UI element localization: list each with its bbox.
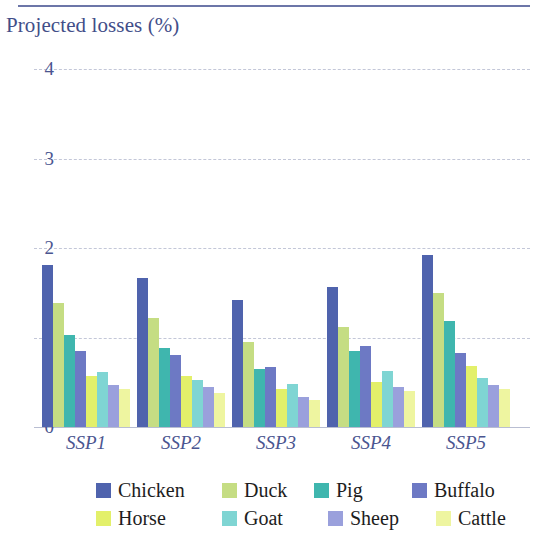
bar-horse-ssp1: [86, 376, 97, 427]
legend-label-horse: Horse: [118, 508, 166, 528]
bar-sheep-ssp2: [203, 387, 214, 427]
legend-label-goat: Goat: [244, 508, 283, 528]
header-rule: [18, 5, 530, 7]
bar-cattle-ssp3: [309, 400, 320, 427]
gridline-0: [34, 427, 530, 428]
legend-item-goat[interactable]: Goat: [222, 508, 283, 528]
legend-swatch-duck-icon: [222, 483, 237, 498]
legend-item-cattle[interactable]: Cattle: [436, 508, 506, 528]
legend-swatch-goat-icon: [222, 511, 237, 526]
bar-pig-ssp3: [254, 369, 265, 427]
bar-pig-ssp1: [64, 335, 75, 427]
legend-row-2: HorseGoatSheepCattle: [96, 504, 532, 532]
bar-sheep-ssp4: [393, 387, 404, 427]
bar-duck-ssp3: [243, 342, 254, 427]
bars: [232, 63, 320, 427]
bar-duck-ssp4: [338, 327, 349, 427]
bar-goat-ssp1: [97, 372, 108, 427]
legend-swatch-cattle-icon: [436, 511, 451, 526]
legend-item-horse[interactable]: Horse: [96, 508, 166, 528]
bar-goat-ssp3: [287, 384, 298, 427]
bar-buffalo-ssp1: [75, 351, 86, 427]
bar-chicken-ssp4: [327, 287, 338, 428]
legend-swatch-buffalo-icon: [412, 483, 427, 498]
bar-buffalo-ssp4: [360, 346, 371, 427]
legend-label-duck: Duck: [244, 480, 287, 500]
legend-swatch-chicken-icon: [96, 483, 111, 498]
bar-duck-ssp5: [433, 293, 444, 427]
bar-buffalo-ssp5: [455, 353, 466, 427]
bar-cattle-ssp2: [214, 393, 225, 427]
chart-figure: Projected losses (%) 01234 SSP1SSP2SSP3S…: [0, 0, 536, 535]
chart-title: Projected losses (%): [6, 13, 179, 38]
bar-chicken-ssp3: [232, 300, 243, 427]
legend-label-buffalo: Buffalo: [434, 480, 495, 500]
legend-item-duck[interactable]: Duck: [222, 480, 287, 500]
bars: [327, 63, 415, 427]
bar-horse-ssp3: [276, 389, 287, 427]
bar-horse-ssp5: [466, 366, 477, 427]
bar-pig-ssp2: [159, 348, 170, 427]
bar-goat-ssp4: [382, 371, 393, 427]
bar-chicken-ssp2: [137, 278, 148, 427]
bar-sheep-ssp3: [298, 397, 309, 427]
legend-row-1: ChickenDuckPigBuffalo: [96, 476, 532, 504]
bar-pig-ssp5: [444, 321, 455, 427]
legend-item-buffalo[interactable]: Buffalo: [412, 480, 495, 500]
bar-sheep-ssp5: [488, 385, 499, 427]
bar-cattle-ssp5: [499, 389, 510, 427]
legend-label-cattle: Cattle: [458, 508, 506, 528]
legend-swatch-pig-icon: [314, 483, 329, 498]
bar-duck-ssp1: [53, 303, 64, 427]
bar-pig-ssp4: [349, 351, 360, 427]
legend-label-pig: Pig: [336, 480, 363, 500]
bar-cattle-ssp1: [119, 389, 130, 427]
legend-swatch-horse-icon: [96, 511, 111, 526]
bars: [422, 63, 510, 427]
bar-goat-ssp2: [192, 380, 203, 427]
legend-item-chicken[interactable]: Chicken: [96, 480, 185, 500]
bar-cattle-ssp4: [404, 391, 415, 427]
legend-item-sheep[interactable]: Sheep: [328, 508, 399, 528]
bar-buffalo-ssp2: [170, 355, 181, 427]
legend-item-pig[interactable]: Pig: [314, 480, 363, 500]
bar-duck-ssp2: [148, 318, 159, 427]
bar-sheep-ssp1: [108, 385, 119, 427]
bar-buffalo-ssp3: [265, 367, 276, 427]
legend-label-chicken: Chicken: [118, 480, 185, 500]
chart-legend: ChickenDuckPigBuffaloHorseGoatSheepCattl…: [96, 476, 532, 532]
bar-chicken-ssp1: [42, 265, 53, 427]
bars: [137, 63, 225, 427]
bar-horse-ssp4: [371, 382, 382, 427]
bar-chicken-ssp5: [422, 255, 433, 427]
legend-label-sheep: Sheep: [350, 508, 399, 528]
plot-area: 01234 SSP1SSP2SSP3SSP4SSP5: [30, 60, 530, 430]
bar-horse-ssp2: [181, 376, 192, 427]
bars: [42, 63, 130, 427]
legend-swatch-sheep-icon: [328, 511, 343, 526]
x-tick-label-ssp5: SSP5: [408, 432, 524, 454]
bar-goat-ssp5: [477, 378, 488, 427]
